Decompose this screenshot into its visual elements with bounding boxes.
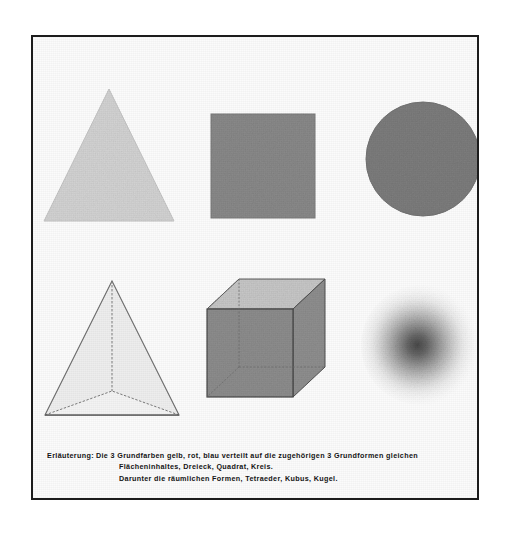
triangle-shape xyxy=(41,85,177,225)
square-icon xyxy=(209,112,317,220)
illustration-plate: Erläuterung:Die 3 Grundfarben gelb, rot,… xyxy=(31,35,479,500)
cube-shape xyxy=(201,275,329,405)
sphere-icon xyxy=(361,282,479,408)
caption-block: Erläuterung:Die 3 Grundfarben gelb, rot,… xyxy=(33,450,477,484)
tetrahedron-icon xyxy=(41,275,183,421)
circle-icon xyxy=(363,99,479,219)
caption-line-3: Darunter die räumlichen Formen, Tetraede… xyxy=(47,473,463,484)
triangle-icon xyxy=(41,85,177,225)
caption-line-1-text: Die 3 Grundfarben gelb, rot, blau vertei… xyxy=(96,451,418,460)
cube-icon xyxy=(201,275,329,405)
square-shape xyxy=(209,112,317,220)
circle-shape xyxy=(363,99,479,219)
caption-line-2: Flächeninhaltes, Dreieck, Quadrat, Kreis… xyxy=(47,461,463,472)
caption-line-1: Erläuterung:Die 3 Grundfarben gelb, rot,… xyxy=(47,450,463,461)
caption-lead: Erläuterung: xyxy=(47,451,94,460)
sphere-shape xyxy=(361,282,479,408)
figure-area xyxy=(33,37,477,432)
tetrahedron-shape xyxy=(41,275,183,421)
